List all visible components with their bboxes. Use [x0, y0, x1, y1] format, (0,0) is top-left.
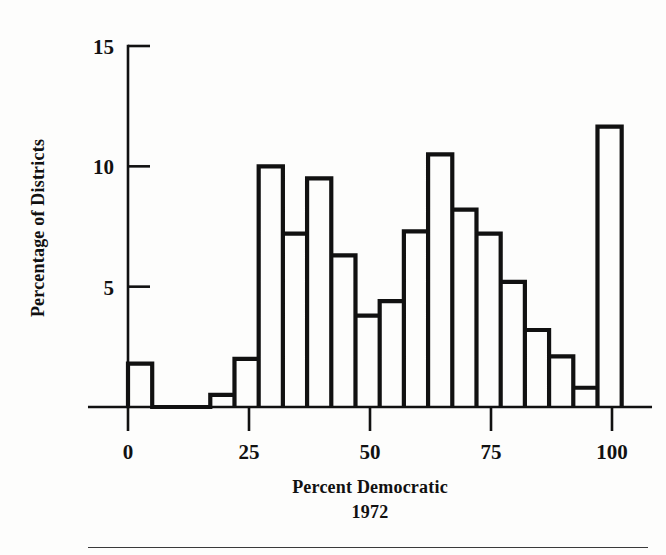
tick-group [128, 46, 612, 431]
x-tick-label-50: 50 [360, 440, 381, 464]
histogram-chart: 510150255075100 Percentage of Districts … [0, 0, 666, 555]
y-tick-label-10: 10 [93, 155, 114, 179]
y-axis-title: Percentage of Districts [28, 139, 48, 317]
x-tick-label-0: 0 [123, 440, 134, 464]
x-axis-subtitle: 1972 [352, 502, 389, 522]
y-tick-label-5: 5 [104, 276, 115, 300]
histogram-step-outline [128, 127, 622, 407]
figure-root: 510150255075100 Percentage of Districts … [0, 0, 666, 555]
x-tick-label-100: 100 [596, 440, 628, 464]
x-tick-label-25: 25 [239, 440, 260, 464]
footer-rule [88, 547, 648, 548]
y-tick-label-15: 15 [93, 35, 114, 59]
x-tick-label-75: 75 [481, 440, 502, 464]
axes-group [89, 46, 650, 407]
x-axis-title: Percent Democratic [292, 477, 448, 497]
